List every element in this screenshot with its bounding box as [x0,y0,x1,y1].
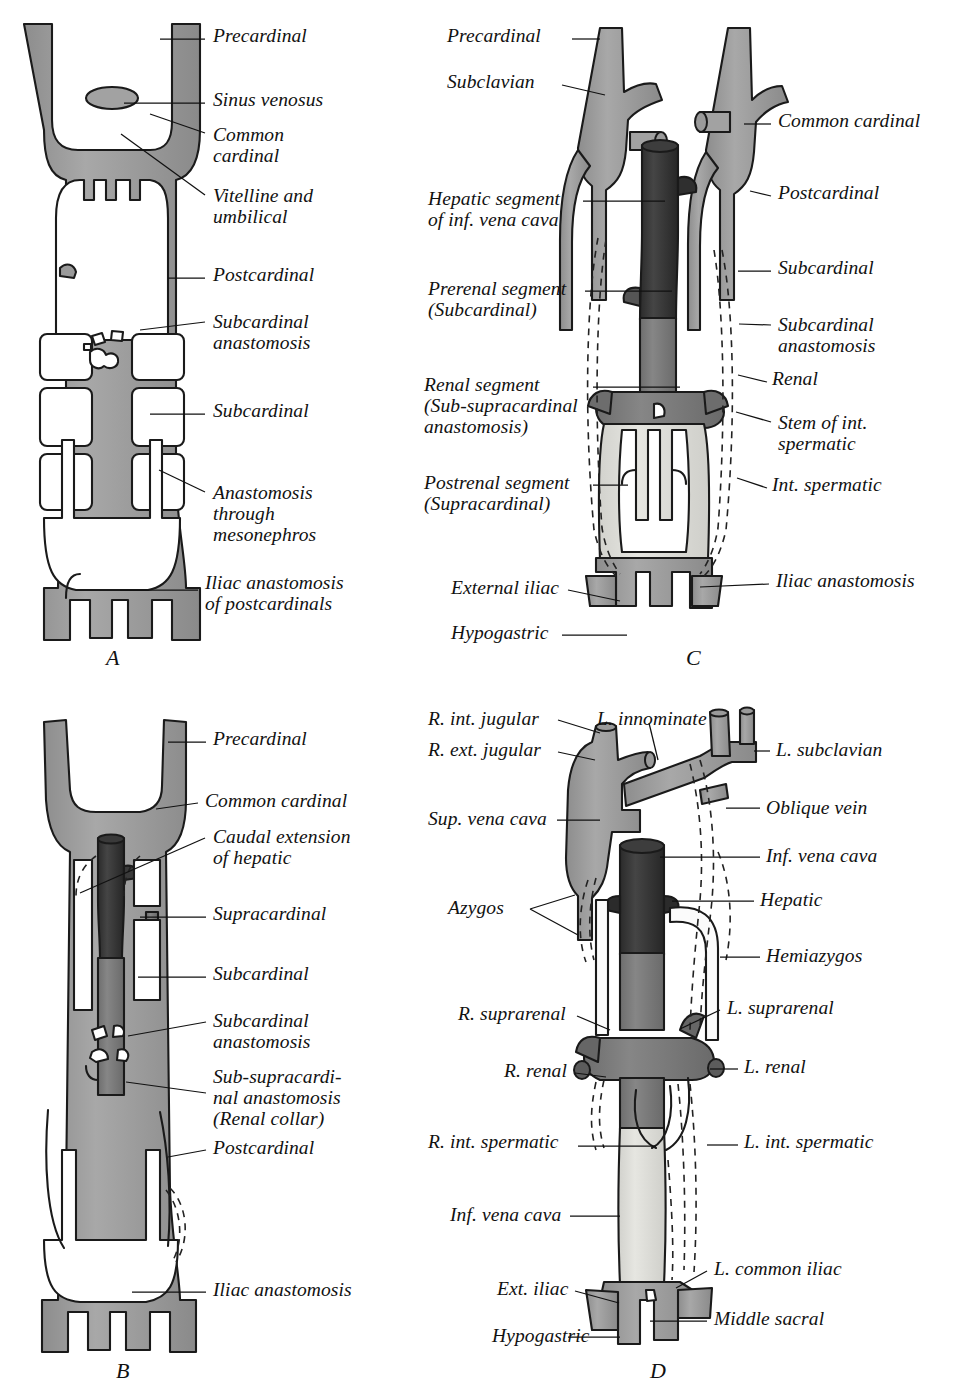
label-c-stem-of-int-spermatic: Stem of int. spermatic [778,412,867,454]
label-d-azygos: Azygos [448,897,504,918]
label-a-iliac-anastomosis-of-postcardinals: Iliac anastomosis of postcardinals [205,572,344,614]
label-c-external-iliac: External iliac [451,577,559,598]
label-d-hemiazygos: Hemiazygos [766,945,862,966]
label-c-precardinal: Precardinal [447,25,541,46]
label-d-l-int-spermatic: L. int. spermatic [744,1131,874,1152]
panel-c-vessels [560,28,788,608]
label-d-r-int-spermatic: R. int. spermatic [428,1131,559,1152]
label-d-l-suprarenal: L. suprarenal [727,997,834,1018]
label-d-inf-vena-cava-top: Inf. vena cava [766,845,877,866]
label-d-l-renal: L. renal [744,1056,806,1077]
leader-c-subcardinal-anastomosis [739,324,771,325]
panel-letter-c: C [686,645,701,671]
label-d-l-common-iliac: L. common iliac [714,1258,842,1279]
label-b-sub-supracardinal-anastomosis: Sub-supracardi- nal anastomosis (Renal c… [213,1066,342,1129]
label-a-postcardinal: Postcardinal [213,264,314,285]
label-d-hepatic: Hepatic [760,889,822,910]
label-d-l-innominate: L. innominate [597,708,707,729]
label-b-precardinal: Precardinal [213,728,307,749]
label-c-iliac-anastomosis: Iliac anastomosis [776,570,915,591]
label-b-iliac-anastomosis: Iliac anastomosis [213,1279,352,1300]
label-d-hypogastric: Hypogastric [492,1325,590,1346]
label-d-sup-vena-cava: Sup. vena cava [428,808,547,829]
label-c-int-spermatic: Int. spermatic [772,474,882,495]
panel-a-vessels [24,24,200,640]
leader-d-r-int-jugular [558,720,600,733]
label-d-r-int-jugular: R. int. jugular [428,708,539,729]
label-c-postrenal-segment: Postrenal segment (Supracardinal) [424,472,570,514]
label-b-caudal-extension-of-hepatic: Caudal extension of hepatic [213,826,351,868]
label-a-common-cardinal: Common cardinal [213,124,284,166]
leader-c-postcardinal [750,191,771,196]
label-c-renal: Renal [772,368,818,389]
label-b-subcardinal-anastomosis: Subcardinal anastomosis [213,1010,311,1052]
label-b-postcardinal: Postcardinal [213,1137,314,1158]
label-c-subcardinal-anastomosis: Subcardinal anastomosis [778,314,876,356]
panel-d-vessels [566,708,756,1345]
label-c-hepatic-segment: Hepatic segment of inf. vena cava [428,188,560,230]
label-c-hypogastric: Hypogastric [451,622,549,643]
label-d-r-ext-jugular: R. ext. jugular [428,739,541,760]
panel-letter-b: B [116,1358,129,1384]
label-a-sinus-venosus: Sinus venosus [213,89,323,110]
label-b-common-cardinal: Common cardinal [205,790,347,811]
label-d-oblique-vein: Oblique vein [766,797,867,818]
label-c-prerenal-segment: Prerenal segment (Subcardinal) [428,278,566,320]
leader-c-renal [738,375,767,382]
label-a-anastomosis-through-mesonephros: Anastomosis through mesonephros [213,482,316,545]
label-b-supracardinal: Supracardinal [213,903,326,924]
label-c-renal-segment: Renal segment (Sub-supracardinal anastom… [424,374,578,437]
label-a-subcardinal: Subcardinal [213,400,309,421]
panel-b-vessels [42,720,196,1352]
panel-letter-d: D [650,1358,666,1384]
label-d-r-renal: R. renal [504,1060,567,1081]
leader-c-int-spermatic [737,478,767,488]
label-b-subcardinal: Subcardinal [213,963,309,984]
label-d-l-subclavian: L. subclavian [776,739,882,760]
label-c-common-cardinal: Common cardinal [778,110,920,131]
label-c-postcardinal: Postcardinal [778,182,879,203]
label-d-ext-iliac: Ext. iliac [497,1278,568,1299]
label-c-subclavian: Subclavian [447,71,535,92]
leader-c-stem-of-int-spermatic [736,412,771,422]
label-d-r-suprarenal: R. suprarenal [458,1003,566,1024]
vena-cava-development-figure: A B C D PrecardinalSinus venosusCommon c… [0,0,957,1391]
label-d-middle-sacral: Middle sacral [714,1308,824,1329]
leader-d-l-common-iliac [676,1271,707,1288]
label-a-vitelline-and-umbilical: Vitelline and umbilical [213,185,313,227]
label-c-subcardinal: Subcardinal [778,257,874,278]
leader-d-azygos [530,895,578,935]
label-a-precardinal: Precardinal [213,25,307,46]
panel-letter-a: A [106,645,119,671]
leader-b-postcardinal [168,1150,206,1157]
label-d-inf-vena-cava-bottom: Inf. vena cava [450,1204,561,1225]
label-a-subcardinal-anastomosis: Subcardinal anastomosis [213,311,311,353]
